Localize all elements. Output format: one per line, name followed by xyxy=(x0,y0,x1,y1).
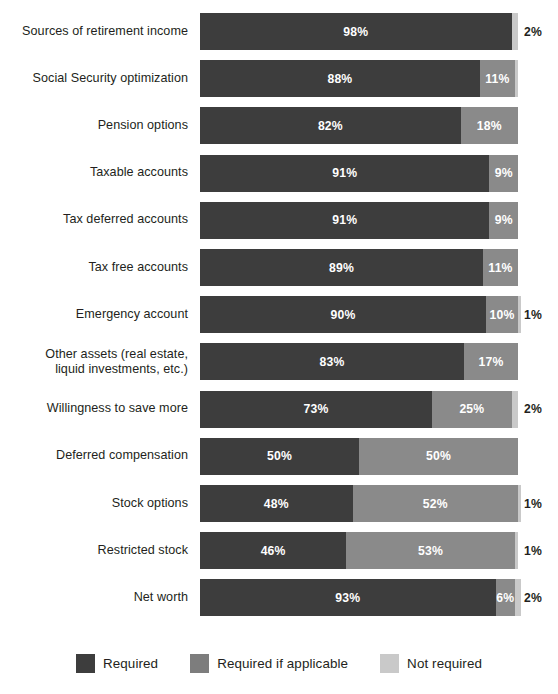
chart-row: Willingness to save more2%73%25% xyxy=(0,391,558,428)
bar-segment-applicable: 11% xyxy=(480,60,515,97)
category-label: Taxable accounts xyxy=(0,165,188,181)
legend-label: Required xyxy=(103,656,158,671)
segment-value-label-outside: 1% xyxy=(524,544,542,558)
bar-track: 88%11% xyxy=(200,60,518,97)
bar-track: 89%11% xyxy=(200,249,518,286)
bar-segment-notrequired xyxy=(518,296,521,333)
bar-track: 73%25% xyxy=(200,391,518,428)
segment-value-label: 6% xyxy=(496,591,514,605)
segment-value-label-outside: 2% xyxy=(524,25,542,39)
bar-segment-required: 91% xyxy=(200,155,489,192)
segment-value-label: 10% xyxy=(490,308,515,322)
segment-value-label: 53% xyxy=(418,544,443,558)
segment-value-label-outside: 2% xyxy=(524,591,542,605)
segment-value-label: 83% xyxy=(319,355,344,369)
bar-segment-notrequired xyxy=(512,13,518,50)
segment-value-label: 18% xyxy=(477,119,502,133)
bar-segment-required: 83% xyxy=(200,343,464,380)
bar-segment-required: 89% xyxy=(200,249,483,286)
bar-track: 93%6% xyxy=(200,579,518,616)
bar-segment-applicable: 17% xyxy=(464,343,518,380)
bar-segment-applicable: 50% xyxy=(359,438,518,475)
segment-value-label-outside: 1% xyxy=(524,497,542,511)
segment-value-label: 93% xyxy=(335,591,360,605)
bar-segment-required: 82% xyxy=(200,107,461,144)
segment-value-label-outside: 2% xyxy=(524,402,542,416)
segment-value-label: 50% xyxy=(426,449,451,463)
bar-track: 83%17% xyxy=(200,343,518,380)
segment-value-label: 9% xyxy=(495,213,513,227)
segment-value-label: 25% xyxy=(459,402,484,416)
segment-value-label: 90% xyxy=(331,308,356,322)
segment-value-label: 91% xyxy=(332,166,357,180)
bar-track: 91%9% xyxy=(200,202,518,239)
bar-segment-applicable: 9% xyxy=(489,202,518,239)
legend-item-required[interactable]: Required xyxy=(76,654,158,673)
bar-segment-required: 88% xyxy=(200,60,480,97)
category-label: Sources of retirement income xyxy=(0,24,188,40)
bar-segment-required: 46% xyxy=(200,532,346,569)
bar-segment-applicable: 18% xyxy=(461,107,518,144)
segment-value-label: 89% xyxy=(329,261,354,275)
chart-row: Emergency account1%90%10% xyxy=(0,296,558,333)
legend-item-notrequired[interactable]: Not required xyxy=(380,654,482,673)
bar-segment-applicable: 52% xyxy=(353,485,518,522)
chart-row: Pension options82%18% xyxy=(0,107,558,144)
category-label: Willingness to save more xyxy=(0,401,188,417)
chart-row: Social Security optimization88%11% xyxy=(0,60,558,97)
category-label: Stock options xyxy=(0,496,188,512)
stacked-bar-chart: Sources of retirement income2%98%Social … xyxy=(0,0,558,694)
bar-segment-notrequired xyxy=(518,485,521,522)
legend-swatch-icon xyxy=(76,654,95,673)
bar-segment-notrequired xyxy=(515,60,518,97)
bar-segment-required: 48% xyxy=(200,485,353,522)
segment-value-label: 11% xyxy=(488,261,512,275)
bar-track: 90%10% xyxy=(200,296,518,333)
segment-value-label-outside: 1% xyxy=(524,308,542,322)
bar-track: 82%18% xyxy=(200,107,518,144)
bar-segment-applicable: 25% xyxy=(432,391,512,428)
bar-segment-required: 98% xyxy=(200,13,512,50)
bar-segment-required: 90% xyxy=(200,296,486,333)
chart-row: Taxable accounts91%9% xyxy=(0,155,558,192)
segment-value-label: 48% xyxy=(264,497,289,511)
bar-segment-applicable: 10% xyxy=(486,296,518,333)
segment-value-label: 17% xyxy=(478,355,503,369)
segment-value-label: 50% xyxy=(267,449,292,463)
category-label: Social Security optimization xyxy=(0,71,188,87)
chart-plot-area: Sources of retirement income2%98%Social … xyxy=(0,0,558,638)
bar-track: 50%50% xyxy=(200,438,518,475)
chart-row: Restricted stock1%46%53% xyxy=(0,532,558,569)
bar-track: 98% xyxy=(200,13,518,50)
segment-value-label: 88% xyxy=(327,72,352,86)
bar-segment-applicable: 11% xyxy=(483,249,518,286)
bar-segment-notrequired xyxy=(515,532,518,569)
legend-swatch-icon xyxy=(380,654,399,673)
segment-value-label: 11% xyxy=(485,72,509,86)
segment-value-label: 98% xyxy=(343,25,368,39)
bar-track: 91%9% xyxy=(200,155,518,192)
bar-segment-notrequired xyxy=(512,391,518,428)
chart-row: Tax free accounts89%11% xyxy=(0,249,558,286)
legend-item-applicable[interactable]: Required if applicable xyxy=(190,654,348,673)
segment-value-label: 9% xyxy=(495,166,513,180)
bar-track: 48%52% xyxy=(200,485,518,522)
segment-value-label: 82% xyxy=(318,119,343,133)
bar-segment-required: 91% xyxy=(200,202,489,239)
category-label: Pension options xyxy=(0,118,188,134)
bar-segment-required: 50% xyxy=(200,438,359,475)
segment-value-label: 52% xyxy=(423,497,448,511)
chart-row: Sources of retirement income2%98% xyxy=(0,13,558,50)
chart-row: Net worth2%93%6% xyxy=(0,579,558,616)
chart-row: Other assets (real estate, liquid invest… xyxy=(0,343,558,380)
category-label: Tax free accounts xyxy=(0,260,188,276)
segment-value-label: 91% xyxy=(332,213,357,227)
legend-label: Not required xyxy=(407,656,482,671)
chart-legend: RequiredRequired if applicableNot requir… xyxy=(0,648,558,678)
bar-segment-required: 73% xyxy=(200,391,432,428)
bar-segment-applicable: 6% xyxy=(496,579,515,616)
segment-value-label: 46% xyxy=(261,544,286,558)
category-label: Restricted stock xyxy=(0,543,188,559)
category-label: Net worth xyxy=(0,590,188,606)
category-label: Deferred compensation xyxy=(0,449,188,465)
